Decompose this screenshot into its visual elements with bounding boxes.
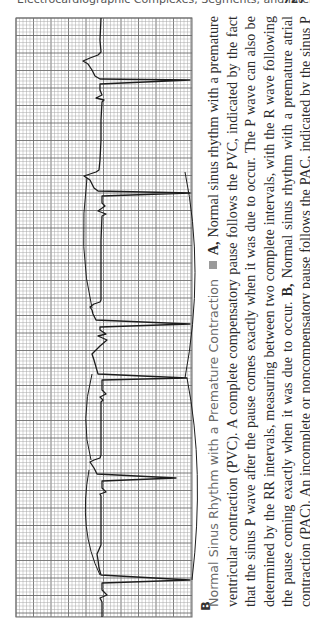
ecg-grid [16, 18, 192, 617]
caption-part-b-label: B, [279, 283, 295, 296]
rr-arc-left-1 [83, 178, 92, 308]
figure-caption: Normal Sinus Rhythm with a Premature Con… [200, 16, 310, 621]
caption-part-a-label: A, [205, 241, 221, 255]
caption-title: Normal Sinus Rhythm with a Premature Con… [206, 279, 221, 607]
caption-bullet-icon [209, 261, 217, 269]
grid-border [16, 18, 192, 617]
